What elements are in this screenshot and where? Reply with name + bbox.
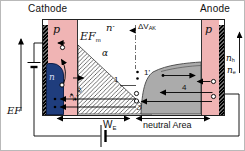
alpha-label: α	[102, 49, 108, 58]
flow1-prime-label: 1'	[144, 69, 150, 77]
anode-p-label: p	[205, 24, 212, 35]
anode-contact-strip	[219, 25, 224, 115]
cathode-p-label: p	[53, 24, 60, 35]
ne-label: ne	[227, 66, 236, 76]
delta-v-label: ΔVAK	[138, 23, 156, 32]
n-drift-label: n-	[106, 23, 115, 33]
flow4-label: 4	[182, 84, 186, 92]
left-battery-symbol	[28, 63, 41, 68]
n-well-label: n	[49, 73, 55, 82]
anode-title: Anode	[200, 4, 230, 14]
flow3-label: 3	[137, 104, 142, 112]
ef-metal-label: EFm	[80, 31, 101, 43]
cathode-n-well	[46, 63, 64, 115]
ef-axis-label: EF	[7, 106, 21, 116]
nh-label: nh	[226, 54, 235, 64]
cathode-title: Cathode	[28, 4, 67, 14]
flow1-label: 1	[114, 76, 118, 84]
semiconductor-band-diagram: Cathode Anode p n p n- EFm α ΔVAK 1 1' 2…	[0, 0, 245, 151]
we-label: WE	[103, 120, 116, 131]
neutral-area-label: neutral Area	[143, 121, 192, 130]
